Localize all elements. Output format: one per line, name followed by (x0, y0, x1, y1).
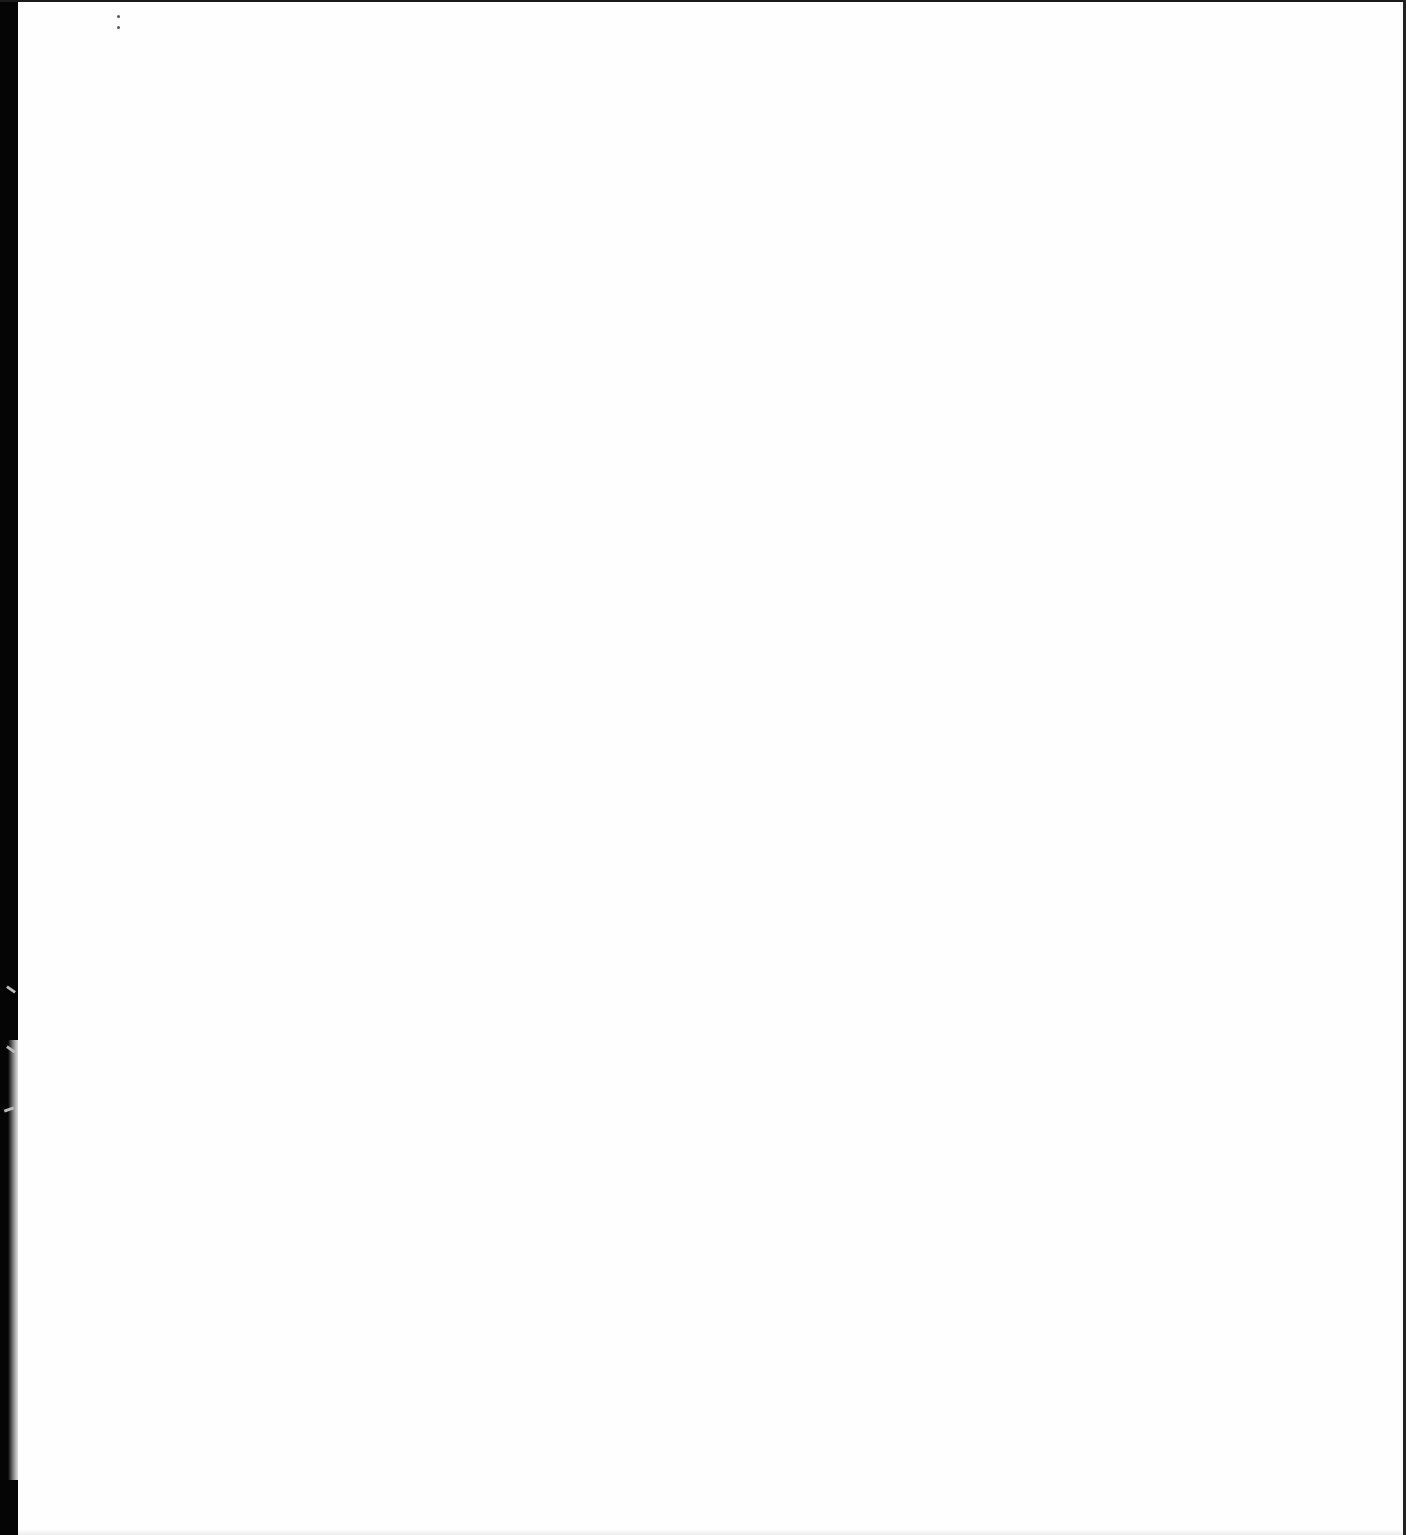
top-border (0, 0, 1406, 2)
bottom-shadow (18, 1529, 1403, 1535)
blank-page (18, 2, 1403, 1535)
scanned-page (0, 0, 1406, 1535)
speck-mark (117, 15, 120, 18)
speck-mark (117, 26, 120, 29)
